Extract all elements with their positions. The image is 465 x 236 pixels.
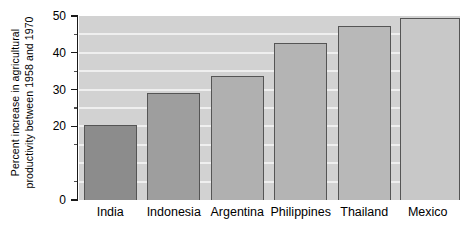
bar-philippines[interactable] xyxy=(274,43,327,201)
y-axis-tick-label: 20 xyxy=(53,120,66,132)
bar-indonesia[interactable] xyxy=(147,93,200,200)
y-axis-title: Percent increase in agricultural product… xyxy=(0,0,44,205)
y-axis-title-line-2: productivity between 1958 and 1970 xyxy=(22,16,36,188)
y-axis-tick-label: 40 xyxy=(53,47,66,59)
x-axis-tick-label: Argentina xyxy=(206,202,270,224)
x-axis-tick-label: Philippines xyxy=(269,202,333,224)
bar-slot xyxy=(396,16,460,200)
x-axis-tick-label: Mexico xyxy=(396,202,460,224)
y-axis-tick-label: 0 xyxy=(59,194,66,206)
y-axis-tick-labels: 020304050 xyxy=(44,0,66,236)
y-axis-title-line-1: Percent increase in agricultural xyxy=(9,16,23,188)
x-axis-tick-label: India xyxy=(79,202,143,224)
bar-slot xyxy=(79,16,143,200)
bar-india[interactable] xyxy=(84,125,137,200)
plot-area xyxy=(79,16,460,200)
bar-slot xyxy=(269,16,333,200)
y-axis-tick-label: 30 xyxy=(53,84,66,96)
x-axis-tick-label: Indonesia xyxy=(142,202,206,224)
bars-group xyxy=(79,16,460,200)
x-axis-tick-label: Thailand xyxy=(333,202,397,224)
x-axis-tick-labels: IndiaIndonesiaArgentinaPhilippinesThaila… xyxy=(79,202,460,224)
bar-slot xyxy=(206,16,270,200)
bar-thailand[interactable] xyxy=(338,26,391,200)
bar-slot xyxy=(142,16,206,200)
bar-mexico[interactable] xyxy=(400,18,460,200)
y-axis-tick-label: 50 xyxy=(53,10,66,22)
bar-argentina[interactable] xyxy=(211,76,264,200)
bar-slot xyxy=(333,16,397,200)
bar-chart-figure: Percent increase in agricultural product… xyxy=(0,0,465,236)
